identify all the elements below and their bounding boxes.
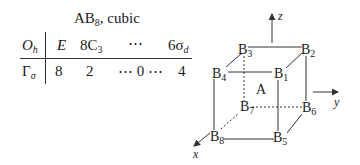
vertex-b8: B8: [210, 130, 224, 144]
cube-diagram: [0, 0, 360, 165]
x-axis-arrow: [194, 133, 210, 146]
vertex-b2: B2: [301, 43, 315, 57]
x-axis-label: x: [193, 148, 198, 160]
vertex-b6: B6: [302, 101, 316, 115]
vertex-b7: B7: [240, 100, 254, 114]
edge-b5-b6: [287, 114, 302, 133]
y-axis-label: y: [334, 96, 339, 108]
vertex-b5: B5: [273, 131, 287, 145]
z-axis-label: z: [278, 10, 283, 22]
vertex-b1: B1: [274, 67, 288, 81]
edge-b8-b7: [221, 113, 239, 129]
vertex-b4: B4: [212, 67, 226, 81]
center-atom-a: A: [256, 83, 266, 97]
vertex-b3: B3: [238, 43, 252, 57]
edge-b1-b2: [286, 53, 302, 68]
